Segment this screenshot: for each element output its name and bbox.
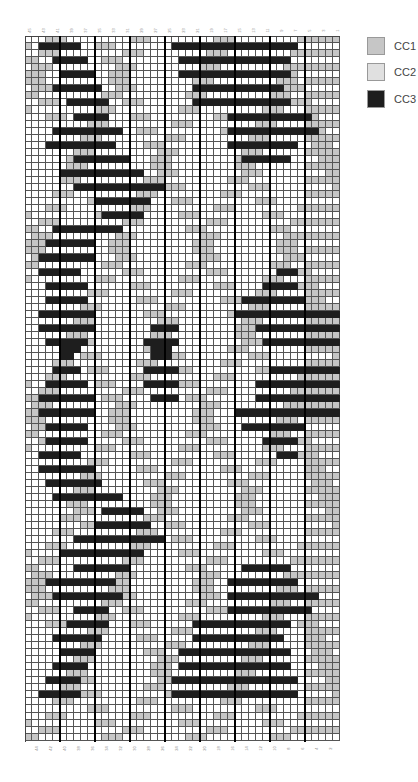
chart-cell [284,698,291,705]
chart-cell [130,304,137,311]
chart-cell [130,579,137,586]
chart-cell [270,121,277,128]
chart-cell [200,381,207,388]
chart-cell [144,621,151,628]
chart-cell [25,515,32,522]
chart-cell [235,57,242,64]
chart-cell [284,233,291,240]
chart-cell [186,593,193,600]
chart-cell [221,677,228,684]
chart-cell [186,43,193,50]
chart-cell [333,121,340,128]
chart-cell [221,480,228,487]
chart-cell [277,395,284,402]
chart-cell [305,318,312,325]
chart-cell [326,85,333,92]
chart-cell [95,149,102,156]
chart-cell [214,121,221,128]
chart-cell [298,480,305,487]
chart-cell [137,713,144,720]
chart-cell [270,283,277,290]
chart-cell [116,487,123,494]
chart-cell [165,713,172,720]
chart-cell [74,374,81,381]
chart-cell [284,99,291,106]
chart-cell [249,276,256,283]
chart-cell [144,698,151,705]
chart-cell [67,149,74,156]
chart-cell [67,360,74,367]
knitting-chart [25,36,340,742]
chart-cell [333,177,340,184]
chart-cell [32,43,39,50]
chart-cell [186,311,193,318]
chart-cell [116,445,123,452]
chart-cell [291,438,298,445]
chart-cell [172,381,179,388]
chart-cell [319,649,326,656]
chart-cell [95,445,102,452]
chart-cell [186,353,193,360]
chart-cell [200,691,207,698]
chart-cell [214,586,221,593]
chart-cell [284,487,291,494]
chart-cell [256,339,263,346]
chart-cell [137,572,144,579]
chart-cell [179,339,186,346]
chart-cell [144,395,151,402]
chart-cell [249,543,256,550]
chart-cell [256,149,263,156]
chart-cell [144,311,151,318]
chart-cell [158,529,165,536]
chart-cell [312,656,319,663]
chart-cell [53,381,60,388]
chart-cell [123,536,130,543]
column-label: 36 [90,742,95,756]
chart-cell [130,501,137,508]
chart-cell [81,593,88,600]
chart-cell [137,466,144,473]
chart-cell [326,128,333,135]
chart-cell [242,346,249,353]
chart-cell [144,71,151,78]
chart-cell [172,339,179,346]
chart-cell [67,550,74,557]
chart-cell [207,156,214,163]
chart-cell [193,191,200,198]
chart-cell [277,536,284,543]
chart-cell [60,445,67,452]
chart-cell [256,621,263,628]
chart-cell [179,198,186,205]
chart-cell [270,297,277,304]
chart-cell [25,135,32,142]
chart-cell [312,508,319,515]
chart-cell [32,149,39,156]
chart-cell [130,114,137,121]
chart-cell [221,445,228,452]
chart-cell [193,734,200,741]
chart-cell [109,713,116,720]
chart-cell [207,691,214,698]
chart-cell [116,649,123,656]
chart-cell [158,318,165,325]
chart-cell [179,727,186,734]
chart-cell [25,501,32,508]
chart-cell [39,163,46,170]
chart-cell [284,614,291,621]
chart-cell [235,114,242,121]
chart-cell [193,522,200,529]
chart-cell [39,367,46,374]
chart-cell [53,276,60,283]
chart-cell [158,550,165,557]
chart-cell [200,262,207,269]
chart-cell [305,494,312,501]
chart-cell [256,269,263,276]
chart-cell [256,466,263,473]
chart-cell [151,276,158,283]
chart-cell [291,128,298,135]
chart-cell [277,670,284,677]
chart-cell [305,628,312,635]
chart-cell [221,466,228,473]
chart-cell [116,720,123,727]
chart-cell [46,529,53,536]
